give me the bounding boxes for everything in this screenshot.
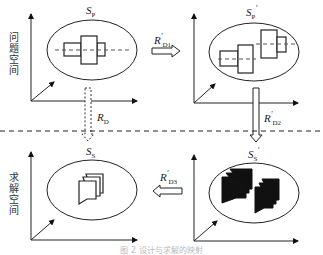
arrow-rd3 (153, 185, 182, 197)
problem-space-label: 问题空间 (8, 32, 19, 76)
label-rd3: R′D3 (160, 170, 177, 186)
label-ss-prime: SS′ (248, 147, 259, 163)
solution-docs-ss (79, 174, 103, 204)
label-rd1: R′D1 (154, 33, 171, 49)
solution-space-label: 求解空间 (8, 172, 19, 216)
label-ss: SS (86, 146, 95, 160)
arrow-rd (82, 88, 94, 141)
label-rd2: R′D2 (264, 111, 281, 127)
solution-blocks-ss-prime (222, 169, 279, 213)
figure-caption: 图 2 设计与求解的映射 (0, 244, 323, 255)
arrow-rd2 (250, 88, 262, 142)
label-sp: SP (86, 5, 95, 19)
problem-blocks-sp-prime (220, 30, 286, 73)
label-sp-prime: SP′ (246, 5, 257, 21)
label-rd: RD (97, 112, 109, 126)
